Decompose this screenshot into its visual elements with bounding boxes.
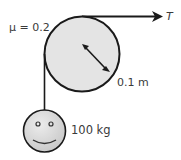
tension-label: T bbox=[166, 11, 173, 22]
friction-coefficient-label: μ = 0.2 bbox=[9, 22, 50, 33]
hanging-mass-smiley-icon bbox=[24, 110, 66, 152]
radius-label: 0.1 m bbox=[117, 77, 149, 88]
mass-label: 100 kg bbox=[71, 125, 111, 137]
pulley-drum bbox=[45, 17, 120, 92]
